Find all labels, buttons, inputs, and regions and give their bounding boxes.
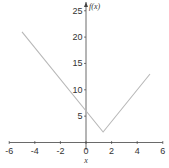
y-axis-label: f(x) — [89, 2, 100, 11]
x-tick-label: -4 — [31, 146, 39, 156]
axes — [9, 2, 163, 150]
y-axis-arrow-icon — [84, 2, 88, 7]
y-tick-label: 25 — [72, 6, 82, 16]
y-tick-label: 20 — [72, 32, 82, 42]
x-tick-label: 2 — [109, 146, 114, 156]
chart: -6-4-20246510152025xf(x) — [0, 0, 169, 168]
x-axis-label: x — [83, 156, 88, 165]
y-tick-label: 15 — [72, 58, 82, 68]
y-tick-label: 5 — [77, 111, 82, 121]
x-tick-label: -6 — [5, 146, 13, 156]
x-tick-label: -2 — [56, 146, 64, 156]
x-tick-label: 0 — [83, 146, 88, 156]
x-tick-label: 4 — [135, 146, 140, 156]
axis-labels: -6-4-20246510152025xf(x) — [5, 2, 165, 165]
y-tick-label: 10 — [72, 85, 82, 95]
x-tick-label: 6 — [160, 146, 165, 156]
